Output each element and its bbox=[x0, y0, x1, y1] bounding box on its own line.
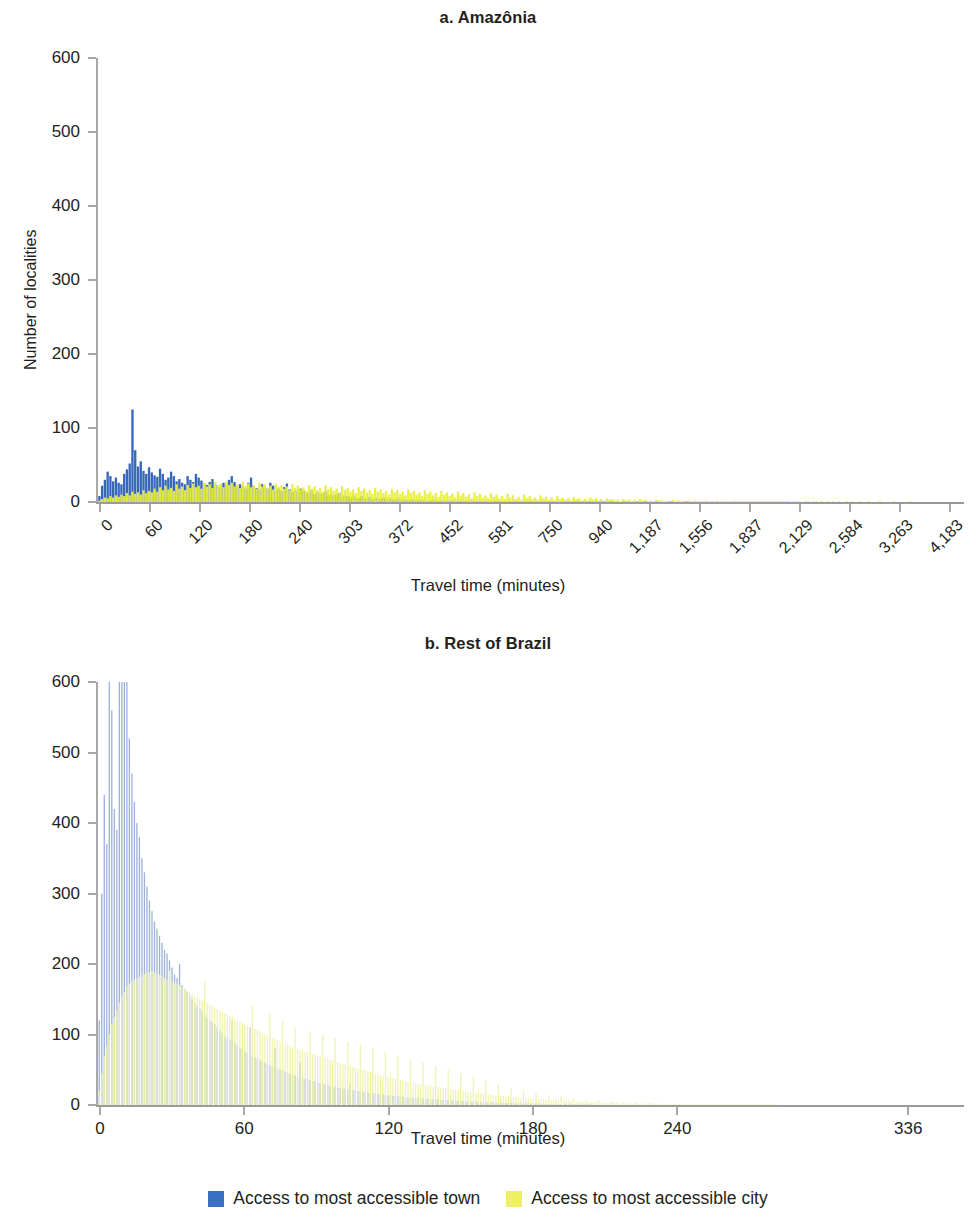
y-tick-mark bbox=[88, 893, 96, 895]
panel-a-x-axis-line bbox=[96, 502, 964, 504]
x-tick-label: 120 bbox=[159, 516, 217, 574]
panel-b-bars bbox=[98, 682, 964, 1105]
x-tick-label: 0 bbox=[59, 516, 117, 574]
y-tick-label: 100 bbox=[20, 418, 80, 438]
y-tick-label: 200 bbox=[20, 344, 80, 364]
y-tick-label: 600 bbox=[20, 48, 80, 68]
x-tick-mark bbox=[949, 504, 951, 512]
x-tick-label: 4,183 bbox=[909, 516, 967, 574]
panel-a-x-axis-label: Travel time (minutes) bbox=[0, 576, 976, 595]
x-tick-mark bbox=[249, 504, 251, 512]
y-tick-label: 300 bbox=[20, 270, 80, 290]
y-tick-mark bbox=[88, 427, 96, 429]
x-tick-label: 581 bbox=[459, 516, 517, 574]
x-tick-label: 3,263 bbox=[859, 516, 917, 574]
x-tick-mark bbox=[749, 504, 751, 512]
x-tick-mark bbox=[399, 504, 401, 512]
x-tick-label: 180 bbox=[209, 516, 267, 574]
x-tick-label: 750 bbox=[509, 516, 567, 574]
x-tick-mark bbox=[99, 504, 101, 512]
x-tick-mark bbox=[907, 1107, 909, 1115]
legend-item-town[interactable]: Access to most accessible town bbox=[208, 1188, 480, 1209]
legend-swatch-town-icon bbox=[208, 1191, 224, 1207]
y-tick-label: 0 bbox=[20, 1095, 80, 1115]
x-tick-mark bbox=[799, 504, 801, 512]
x-tick-label: 240 bbox=[259, 516, 317, 574]
x-tick-mark bbox=[99, 1107, 101, 1115]
y-tick-label: 500 bbox=[20, 122, 80, 142]
x-tick-mark bbox=[149, 504, 151, 512]
x-tick-mark bbox=[299, 504, 301, 512]
x-tick-label: 1,187 bbox=[609, 516, 667, 574]
y-tick-label: 0 bbox=[20, 492, 80, 512]
panel-b-x-axis-line bbox=[96, 1105, 964, 1107]
x-tick-label: 940 bbox=[559, 516, 617, 574]
y-tick-mark bbox=[88, 963, 96, 965]
y-tick-mark bbox=[88, 501, 96, 503]
x-tick-label: 2,129 bbox=[759, 516, 817, 574]
y-tick-mark bbox=[88, 353, 96, 355]
y-tick-mark bbox=[88, 681, 96, 683]
x-tick-label: 1,556 bbox=[659, 516, 717, 574]
y-tick-label: 100 bbox=[20, 1025, 80, 1045]
x-tick-mark bbox=[676, 1107, 678, 1115]
panel-b-title: b. Rest of Brazil bbox=[0, 634, 976, 653]
x-tick-mark bbox=[899, 504, 901, 512]
y-tick-label: 300 bbox=[20, 884, 80, 904]
bar-series-city bbox=[99, 971, 778, 1105]
y-tick-label: 200 bbox=[20, 954, 80, 974]
y-tick-label: 400 bbox=[20, 813, 80, 833]
y-tick-mark bbox=[88, 205, 96, 207]
y-tick-label: 500 bbox=[20, 743, 80, 763]
legend-swatch-city-icon bbox=[506, 1191, 522, 1207]
x-tick-label: 452 bbox=[409, 516, 467, 574]
x-tick-label: 1,837 bbox=[709, 516, 767, 574]
legend: Access to most accessible town Access to… bbox=[0, 1188, 976, 1209]
y-tick-mark bbox=[88, 752, 96, 754]
x-tick-mark bbox=[199, 504, 201, 512]
x-tick-label: 2,584 bbox=[809, 516, 867, 574]
bar-series-town bbox=[99, 682, 595, 1105]
x-tick-mark bbox=[849, 504, 851, 512]
y-tick-label: 600 bbox=[20, 672, 80, 692]
y-tick-mark bbox=[88, 57, 96, 59]
x-tick-label: 60 bbox=[109, 516, 167, 574]
x-tick-mark bbox=[243, 1107, 245, 1115]
panel-b-plot-area: 0100200300400500600 060120180240336 bbox=[98, 682, 964, 1105]
x-tick-mark bbox=[388, 1107, 390, 1115]
x-tick-mark bbox=[699, 504, 701, 512]
panel-a-title: a. Amazônia bbox=[0, 8, 976, 27]
panel-a-plot-area: 0100200300400500600 06012018024030337245… bbox=[98, 58, 964, 502]
y-tick-mark bbox=[88, 822, 96, 824]
panel-b-x-axis-label: Travel time (minutes) bbox=[0, 1129, 976, 1148]
x-tick-label: 372 bbox=[359, 516, 417, 574]
y-tick-mark bbox=[88, 1104, 96, 1106]
y-tick-label: 400 bbox=[20, 196, 80, 216]
x-tick-mark bbox=[349, 504, 351, 512]
bar-series-city bbox=[98, 481, 911, 502]
legend-item-city[interactable]: Access to most accessible city bbox=[506, 1188, 767, 1209]
x-tick-mark bbox=[599, 504, 601, 512]
panel-a-bars bbox=[98, 58, 964, 502]
y-tick-mark bbox=[88, 1034, 96, 1036]
legend-label-city: Access to most accessible city bbox=[531, 1188, 767, 1209]
x-tick-label: 303 bbox=[309, 516, 367, 574]
legend-label-town: Access to most accessible town bbox=[233, 1188, 480, 1209]
y-tick-mark bbox=[88, 279, 96, 281]
x-tick-mark bbox=[449, 504, 451, 512]
x-tick-mark bbox=[649, 504, 651, 512]
y-tick-mark bbox=[88, 131, 96, 133]
panel-a: a. Amazônia Number of localities 0100200… bbox=[0, 0, 976, 620]
x-tick-mark bbox=[549, 504, 551, 512]
figure-histograms-travel-time: a. Amazônia Number of localities 0100200… bbox=[0, 0, 976, 1219]
panel-b: b. Rest of Brazil Number of localities 0… bbox=[0, 626, 976, 1186]
x-tick-mark bbox=[499, 504, 501, 512]
x-tick-mark bbox=[532, 1107, 534, 1115]
